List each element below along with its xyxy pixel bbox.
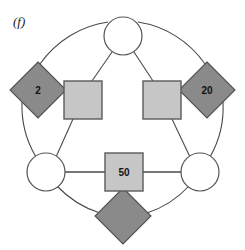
graph-diagram: 2 20 50 xyxy=(0,0,245,250)
diamond-bottom[interactable] xyxy=(95,188,151,244)
square-node-group: 50 xyxy=(64,81,181,191)
square-bottom-label: 50 xyxy=(118,167,130,178)
square-right-shape[interactable] xyxy=(143,81,181,119)
diamond-right[interactable]: 20 xyxy=(179,62,235,118)
node-bottom-left[interactable] xyxy=(27,153,65,191)
edge-square-left-to-bottom-left xyxy=(56,119,73,157)
diamond-bottom-shape[interactable] xyxy=(95,188,151,244)
square-left-shape[interactable] xyxy=(64,81,102,119)
figure-container: (f) 2 20 xyxy=(0,0,245,250)
diamond-right-label: 20 xyxy=(201,85,213,96)
edge-top-to-square-right xyxy=(134,52,153,81)
node-top[interactable] xyxy=(104,17,142,55)
square-left[interactable] xyxy=(64,81,102,119)
diamond-left[interactable]: 2 xyxy=(10,62,66,118)
edge-top-to-square-left xyxy=(92,52,112,81)
arc-diamond-bottom-to-bottom-right xyxy=(147,186,189,213)
node-top-shape[interactable] xyxy=(104,17,142,55)
arc-top-to-diamond-left xyxy=(40,22,108,64)
arc-bottom-left-to-diamond-bottom xyxy=(57,186,100,213)
diamond-left-label: 2 xyxy=(35,85,41,96)
edge-square-right-to-bottom-right xyxy=(172,119,190,157)
node-bottom-left-shape[interactable] xyxy=(27,153,65,191)
square-right[interactable] xyxy=(143,81,181,119)
square-bottom[interactable]: 50 xyxy=(105,153,143,191)
arc-top-to-diamond-right xyxy=(138,22,205,64)
node-bottom-right[interactable] xyxy=(181,153,219,191)
node-bottom-right-shape[interactable] xyxy=(181,153,219,191)
